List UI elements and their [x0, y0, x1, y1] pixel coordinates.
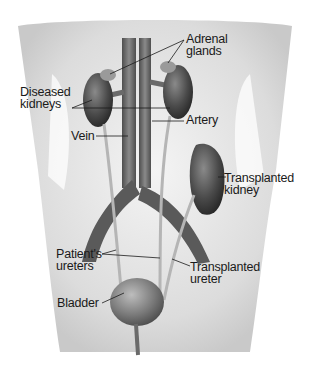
- adrenal-gland-left: [100, 69, 116, 81]
- label-diseased-kidneys: Diseased kidneys: [20, 86, 71, 110]
- label-artery: Artery: [186, 114, 218, 126]
- diseased-kidney-left: [83, 73, 113, 127]
- label-transplanted-ureter: Transplanted ureter: [190, 261, 260, 285]
- label-transplanted-kidney: Transplanted kidney: [224, 172, 294, 196]
- vena-cava: [122, 38, 136, 188]
- urethra: [136, 324, 138, 355]
- label-bladder: Bladder: [57, 297, 99, 309]
- diseased-kidney-right: [163, 65, 193, 119]
- label-adrenal-glands: Adrenal glands: [186, 33, 228, 57]
- label-vein: Vein: [71, 130, 95, 142]
- label-patients-ureters: Patient's ureters: [56, 248, 102, 272]
- aorta: [139, 38, 151, 188]
- bladder: [110, 278, 164, 326]
